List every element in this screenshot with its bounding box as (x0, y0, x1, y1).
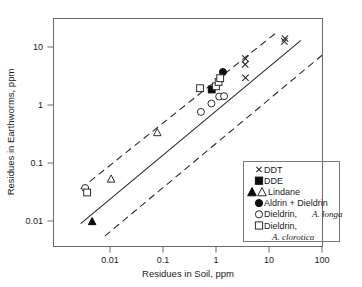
data-point-dieldrin-a-longa (197, 108, 204, 115)
y-tick-label: 0.1 (30, 158, 43, 168)
legend-label: DDT (264, 165, 283, 175)
scatter-plot-svg: 0.010.1110100 0.010.1110 Residues in Soi… (0, 0, 362, 287)
data-point-dieldrin-a-clorotica (197, 85, 204, 92)
upper-confidence-band (81, 34, 275, 189)
filled-triangle-icon (248, 188, 257, 196)
legend-label: Dieldrin, (264, 221, 297, 231)
legend-item[interactable]: Lindane (248, 187, 300, 197)
x-tick-label: 0.1 (157, 255, 170, 265)
legend-item[interactable]: Aldrin + Dieldrin (255, 198, 327, 208)
legend-item[interactable]: Dieldrin, (255, 221, 297, 231)
legend-item[interactable]: Dieldrin,A. longa (255, 209, 343, 219)
x-axis-ticks: 0.010.1110100 (101, 247, 329, 266)
data-point-lindane (88, 217, 96, 224)
x-tick-label: 10 (264, 255, 274, 265)
x-tick-label: 0.01 (101, 255, 119, 265)
x-tick-label: 100 (314, 255, 329, 265)
legend-label-italic: A. clorotica (271, 232, 315, 242)
open-square-icon (255, 222, 262, 229)
legend-item[interactable]: DDT (256, 165, 283, 175)
ddt-x-icon (256, 167, 261, 172)
legend-label-italic: A. longa (311, 209, 343, 219)
chart-figure: 0.010.1110100 0.010.1110 Residues in Soi… (0, 0, 362, 287)
data-point-dieldrin-a-longa (221, 93, 228, 100)
data-point-dieldrin-a-clorotica (217, 75, 224, 82)
data-point-lindane (107, 175, 115, 182)
open-triangle-icon (258, 188, 267, 196)
y-axis-label: Residues in Earthworms, ppm (5, 69, 16, 196)
legend-label: Aldrin + Dieldrin (264, 198, 328, 208)
legend-item[interactable]: A. clorotica (271, 232, 315, 242)
data-point-dieldrin-a-longa (208, 100, 215, 107)
legend-label: Dieldrin, (264, 209, 297, 219)
y-tick-label: 10 (33, 42, 43, 52)
x-axis-label: Residues in Soil, ppm (142, 268, 234, 279)
legend-label: Lindane (268, 187, 300, 197)
filled-square-icon (255, 177, 262, 184)
chart-legend: DDTDDELindaneAldrin + DieldrinDieldrin,A… (244, 162, 343, 242)
filled-circle-icon (255, 200, 262, 207)
y-tick-label: 1 (38, 100, 43, 110)
x-tick-label: 1 (213, 255, 218, 265)
legend-item[interactable]: DDE (255, 176, 283, 186)
y-tick-label: 0.01 (25, 216, 43, 226)
open-circle-icon (255, 211, 262, 218)
legend-label: DDE (264, 176, 283, 186)
data-point-ddt (242, 61, 248, 67)
y-axis-ticks: 0.010.1110 (25, 42, 53, 226)
data-point-dieldrin-a-clorotica (84, 189, 91, 196)
data-point-ddt (242, 75, 248, 81)
